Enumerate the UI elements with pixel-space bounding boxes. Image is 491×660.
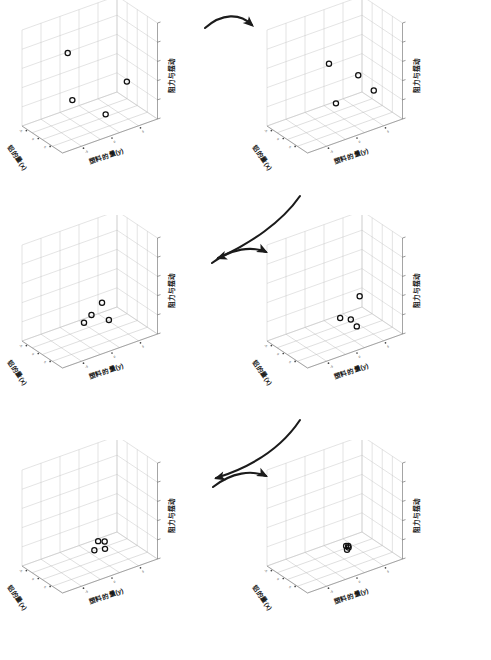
z-axis-tick: [158, 237, 161, 238]
x-axis-tick: [37, 138, 39, 140]
grid-line: [32, 539, 127, 573]
plot3d-axes: -505-505铝的量(x)塑料的量(y)阻力与摆动: [245, 0, 491, 220]
x-axis-tick: [26, 130, 28, 132]
grid-line: [41, 559, 82, 586]
y-axis-tick: [83, 147, 85, 149]
grid-line: [267, 34, 362, 68]
x-axis-tick: [282, 578, 284, 580]
z-axis-tick: [403, 558, 406, 559]
z-axis-tick: [403, 314, 406, 315]
grid-line: [324, 106, 365, 133]
x-axis-tick: [37, 578, 39, 580]
grid-line: [98, 539, 139, 566]
y-axis-title: 塑料的量(y): [87, 586, 124, 606]
y-axis-tick: [83, 587, 85, 589]
grid-line: [267, 230, 362, 264]
grid-line: [267, 307, 362, 341]
grid-line: [286, 334, 327, 361]
data-point: [70, 98, 75, 103]
x-axis-tick-label: -5: [264, 344, 269, 349]
grid-line: [22, 474, 117, 508]
z-axis-tick: [158, 275, 161, 276]
x-axis-tick-label: 0: [31, 352, 35, 356]
z-axis-title: 阻力与摆动: [168, 498, 177, 533]
grid-line: [22, 307, 117, 341]
x-axis-tick: [26, 345, 28, 347]
data-point: [92, 548, 97, 553]
y-axis-title: 塑料的量(y): [332, 146, 369, 166]
z-axis-title: 阻力与摆动: [168, 58, 177, 93]
x-axis-tick: [271, 570, 273, 572]
plot-panel-3: -505-505铝的量(x)塑料的量(y)阻力与摆动: [0, 215, 246, 435]
z-axis-tick: [403, 333, 406, 334]
z-axis-tick: [403, 520, 406, 521]
grid-line: [267, 92, 362, 126]
data-point: [65, 50, 70, 55]
y-axis-tick: [356, 137, 358, 139]
y-axis-tick: [385, 567, 387, 569]
grid-line: [267, 494, 362, 528]
grid-line: [79, 106, 120, 133]
grid-line: [267, 455, 362, 489]
z-axis-tick: [158, 256, 161, 257]
data-point: [356, 73, 361, 78]
x-axis-tick-label: 5: [43, 585, 47, 589]
x-axis-title: 铝的量(x): [251, 358, 275, 387]
z-axis-tick: [403, 462, 406, 463]
y-axis-tick: [328, 362, 330, 364]
grid-line: [32, 99, 127, 133]
plot-panel-2: -505-505铝的量(x)塑料的量(y)阻力与摆动: [245, 0, 491, 220]
y-axis-tick-label: 0: [358, 140, 361, 144]
grid-line: [287, 546, 382, 580]
grid-line: [52, 327, 147, 361]
axis-group: -505-505: [264, 462, 406, 594]
z-axis-tick: [158, 295, 161, 296]
grid-line: [42, 321, 137, 355]
grid-line: [287, 321, 382, 355]
grid-line: [277, 314, 372, 348]
z-axis-tick: [158, 80, 161, 81]
data-point: [96, 539, 101, 544]
grid-line: [308, 119, 403, 153]
z-axis-tick: [403, 118, 406, 119]
grid-line: [267, 440, 362, 470]
z-axis-tick: [403, 237, 406, 238]
grid-line: [22, 15, 117, 49]
grid-line: [42, 546, 137, 580]
grid-group: [22, 440, 158, 593]
plot-panel-4: -505-505铝的量(x)塑料的量(y)阻力与摆动: [245, 215, 491, 435]
x-axis-tick-label: 5: [288, 145, 292, 149]
x-axis-title: 铝的量(x): [251, 143, 275, 172]
grid-line: [22, 126, 63, 153]
x-axis-tick-label: 5: [43, 360, 47, 364]
axis-label-group: 铝的量(x)塑料的量(y)阻力与摆动: [6, 498, 177, 612]
x-axis-tick: [271, 345, 273, 347]
plot-panel-1: -505-505铝的量(x)塑料的量(y)阻力与摆动: [0, 0, 246, 220]
x-axis-tick: [282, 138, 284, 140]
plot3d-axes: -505-505铝的量(x)塑料的量(y)阻力与摆动: [0, 215, 246, 435]
grid-line: [22, 92, 117, 126]
grid-line: [267, 566, 308, 593]
data-point: [354, 324, 359, 329]
grid-line: [22, 249, 117, 283]
y-axis-tick-label: 0: [113, 355, 116, 359]
axis-group: -505-505: [264, 22, 406, 154]
grid-line: [267, 249, 362, 283]
z-axis-tick: [158, 481, 161, 482]
grid-line: [52, 112, 147, 146]
x-axis-tick-label: 0: [276, 352, 280, 356]
data-point: [124, 79, 129, 84]
x-axis-tick-label: 0: [31, 577, 35, 581]
grid-line: [63, 119, 158, 153]
grid-line: [308, 334, 403, 368]
grid-line: [42, 106, 137, 140]
z-axis-tick: [403, 60, 406, 61]
plot3d-axes: -505-505铝的量(x)塑料的量(y)阻力与摆动: [245, 440, 491, 660]
grid-line: [267, 126, 308, 153]
x-axis-tick: [49, 146, 51, 148]
grid-line: [267, 15, 362, 49]
axis-label-group: 铝的量(x)塑料的量(y)阻力与摆动: [251, 273, 422, 387]
grid-line: [297, 112, 392, 146]
y-axis-tick: [385, 127, 387, 129]
axis-group: -505-505: [19, 462, 161, 594]
